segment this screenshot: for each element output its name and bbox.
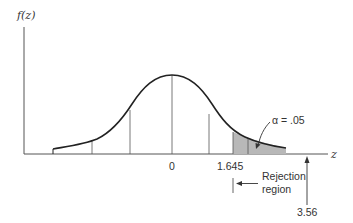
test-statistic-label: 3.56: [297, 206, 318, 218]
x-axis-label: z: [330, 148, 337, 161]
normal-curve: [53, 75, 286, 149]
test-statistic-arrowhead-icon: [305, 156, 310, 163]
y-axis-label: f(z): [16, 9, 35, 22]
rejection-label-line1: Rejection: [262, 170, 306, 182]
tick-label-critical: 1.645: [217, 160, 243, 172]
tick-label-zero: 0: [169, 160, 175, 172]
alpha-label: α = .05: [272, 114, 305, 126]
normal-curve-diagram: f(z) z 0 1.645 α = .05 Rejection region …: [0, 0, 353, 223]
rejection-label-line2: region: [262, 183, 291, 195]
rejection-arrowhead-icon: [236, 181, 242, 186]
